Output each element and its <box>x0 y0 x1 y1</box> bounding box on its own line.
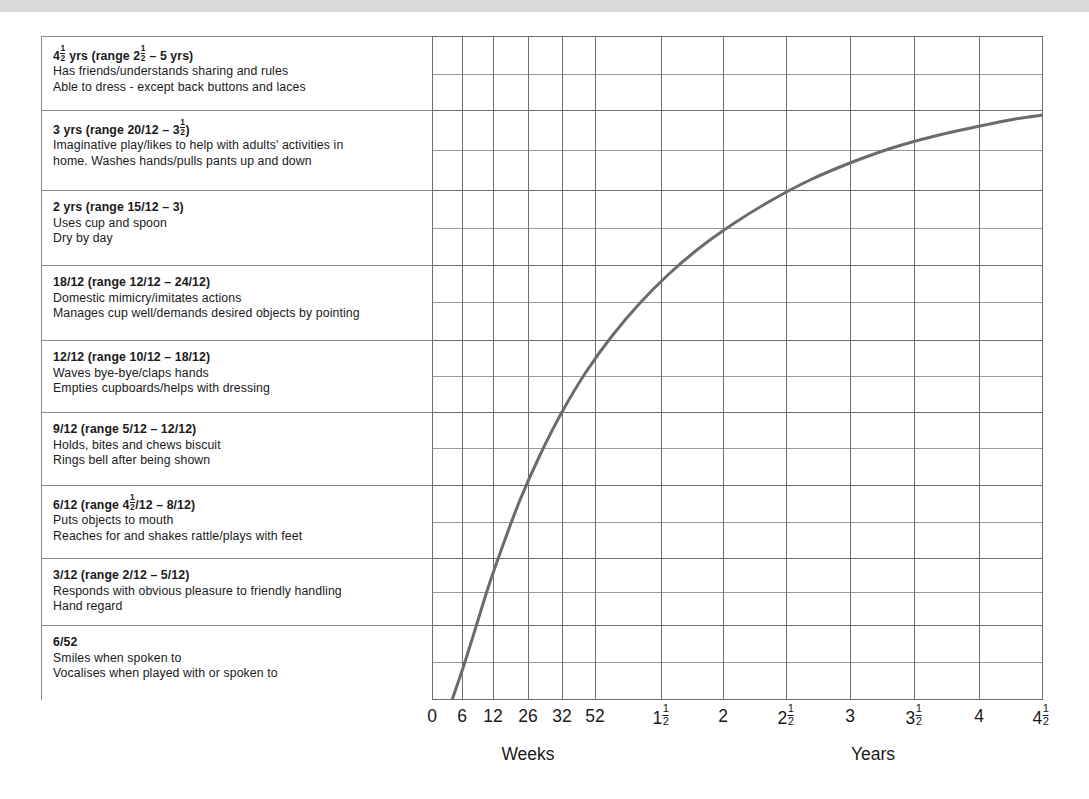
milestone-row: 2 yrs (range 15/12 – 3)Uses cup and spoo… <box>42 191 432 266</box>
development-curve <box>452 115 1043 700</box>
milestone-row: 9/12 (range 5/12 – 12/12)Holds, bites an… <box>42 413 432 486</box>
x-axis-tick-label: 412 <box>1033 706 1050 730</box>
axis-caption-weeks: Weeks <box>501 744 554 765</box>
x-axis-tick-label: 212 <box>778 706 795 730</box>
milestone-age-label: 3 yrs (range 20/12 – 312) <box>53 120 432 138</box>
chart-grid <box>432 36 1043 700</box>
milestone-row: 6/52Smiles when spoken toVocalises when … <box>42 626 432 701</box>
fraction: 12 <box>663 703 669 727</box>
milestone-detail-line: Imaginative play/likes to help with adul… <box>53 138 432 154</box>
milestone-age-label: 6/52 <box>53 635 432 651</box>
axis-caption-years: Years <box>851 744 895 765</box>
milestone-age-label: 9/12 (range 5/12 – 12/12) <box>53 422 432 438</box>
fraction: 12 <box>180 118 185 136</box>
milestone-row: 18/12 (range 12/12 – 24/12)Domestic mimi… <box>42 266 432 341</box>
developmental-milestones-chart: 412 yrs (range 212 – 5 yrs)Has friends/u… <box>0 0 1089 799</box>
milestone-row: 3 yrs (range 20/12 – 312)Imaginative pla… <box>42 111 432 191</box>
fraction: 12 <box>916 703 922 727</box>
x-axis-tick-label: 0 <box>427 706 437 726</box>
milestone-row: 6/12 (range 412/12 – 8/12)Puts objects t… <box>42 486 432 559</box>
x-axis-tick-label: 2 <box>718 706 728 726</box>
fraction: 12 <box>141 44 146 62</box>
milestone-detail-line: Has friends/understands sharing and rule… <box>53 64 432 80</box>
x-axis-tick-label: 6 <box>457 706 467 726</box>
milestone-panel: 412 yrs (range 212 – 5 yrs)Has friends/u… <box>41 36 432 700</box>
x-axis-tick-label: 32 <box>552 706 571 726</box>
grid-and-curve-svg <box>432 36 1043 700</box>
milestone-detail-line: Reaches for and shakes rattle/plays with… <box>53 529 432 545</box>
x-axis-ticks: 0612263252112221233124412 <box>0 706 1089 740</box>
milestone-detail-line: Able to dress - except back buttons and … <box>53 80 432 96</box>
milestone-age-label: 412 yrs (range 212 – 5 yrs) <box>53 46 432 64</box>
milestone-detail-line: Uses cup and spoon <box>53 216 432 232</box>
fraction: 12 <box>130 493 135 511</box>
milestone-detail-line: Domestic mimicry/imitates actions <box>53 291 432 307</box>
milestone-age-label: 18/12 (range 12/12 – 24/12) <box>53 275 432 291</box>
fraction: 12 <box>788 703 794 727</box>
milestone-age-label: 3/12 (range 2/12 – 5/12) <box>53 568 432 584</box>
milestone-detail-line: Vocalises when played with or spoken to <box>53 666 432 682</box>
fraction: 12 <box>1043 703 1049 727</box>
milestone-detail-line: Responds with obvious pleasure to friend… <box>53 584 432 600</box>
milestone-row: 12/12 (range 10/12 – 18/12)Waves bye-bye… <box>42 341 432 413</box>
milestone-row: 3/12 (range 2/12 – 5/12)Responds with ob… <box>42 559 432 626</box>
milestone-detail-line: Hand regard <box>53 599 432 615</box>
x-axis-tick-label: 3 <box>845 706 855 726</box>
milestone-age-label: 12/12 (range 10/12 – 18/12) <box>53 350 432 366</box>
milestone-detail-line: Smiles when spoken to <box>53 651 432 667</box>
milestone-detail-line: Empties cupboards/helps with dressing <box>53 381 432 397</box>
milestone-detail-line: Waves bye-bye/claps hands <box>53 366 432 382</box>
x-axis-tick-label: 12 <box>483 706 502 726</box>
milestone-detail-line: Manages cup well/demands desired objects… <box>53 306 432 322</box>
milestone-detail-line: home. Washes hands/pulls pants up and do… <box>53 154 432 170</box>
x-axis-tick-label: 4 <box>974 706 984 726</box>
milestone-row: 412 yrs (range 212 – 5 yrs)Has friends/u… <box>42 37 432 111</box>
milestone-age-label: 2 yrs (range 15/12 – 3) <box>53 200 432 216</box>
x-axis-tick-label: 112 <box>653 706 670 730</box>
x-axis-tick-label: 312 <box>906 706 923 730</box>
milestone-detail-line: Rings bell after being shown <box>53 453 432 469</box>
milestone-detail-line: Puts objects to mouth <box>53 513 432 529</box>
milestone-detail-line: Dry by day <box>53 231 432 247</box>
x-axis-tick-label: 26 <box>518 706 537 726</box>
x-axis-tick-label: 52 <box>585 706 604 726</box>
milestone-age-label: 6/12 (range 412/12 – 8/12) <box>53 495 432 513</box>
milestone-detail-line: Holds, bites and chews biscuit <box>53 438 432 454</box>
fraction: 12 <box>60 44 65 62</box>
